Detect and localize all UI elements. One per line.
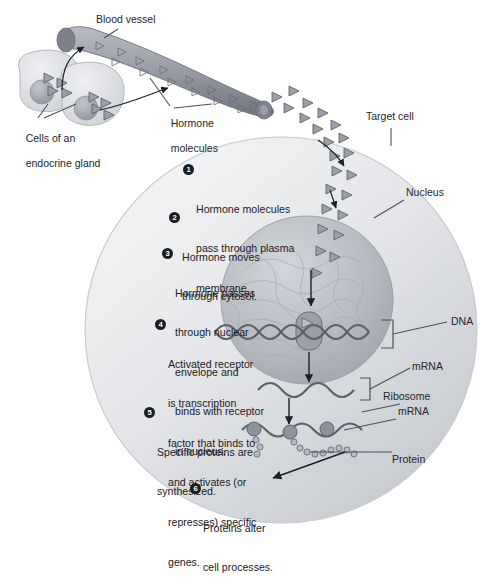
label-blood-vessel: Blood vessel (96, 13, 156, 26)
step-2-number: 2 (169, 212, 180, 223)
label-mrna-nuclear: mRNA (412, 360, 443, 373)
step-4-line1: Activated receptor (168, 358, 256, 371)
step-1-number: 1 (183, 164, 194, 175)
step-4-number: 4 (155, 319, 166, 330)
step-6: 6 Proteins alter cell processes. (203, 482, 273, 584)
label-ribosome: Ribosome (383, 390, 430, 403)
step-5-line1: Specific proteins are (157, 446, 253, 459)
diagram-canvas: Blood vessel Hormone molecules Cells of … (0, 0, 499, 584)
label-nucleus: Nucleus (406, 186, 444, 199)
hormone-receptor-complex (296, 312, 322, 350)
label-mrna-cytosol: mRNA (398, 405, 429, 418)
step-6-line2: cell processes. (203, 561, 273, 574)
label-hormone-molecules-line1: Hormone (171, 117, 214, 129)
label-gland-line1: Cells of an (26, 132, 76, 144)
label-gland-line2: endocrine gland (26, 157, 101, 169)
step-3-line1: Hormone passes (175, 287, 264, 300)
label-dna: DNA (451, 315, 473, 328)
label-target-cell: Target cell (366, 110, 414, 123)
label-hormone-molecules: Hormone molecules (159, 104, 218, 167)
step-6-line1: Proteins alter (203, 522, 273, 535)
label-cells-endocrine-gland: Cells of an endocrine gland (14, 119, 100, 182)
label-protein: Protein (392, 453, 425, 466)
step-6-number: 6 (190, 483, 201, 494)
label-hormone-molecules-line2: molecules (171, 142, 218, 154)
step-5-number: 5 (144, 407, 155, 418)
step-3-number: 3 (162, 248, 173, 259)
